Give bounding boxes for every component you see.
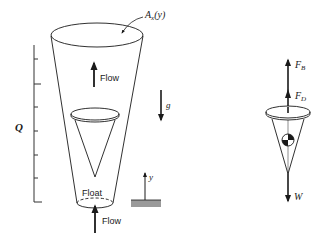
flow-scale: [34, 45, 42, 202]
y-axis-label: y: [148, 172, 153, 182]
svg-text:Ax(y): Ax(y): [144, 9, 166, 22]
float: [71, 108, 119, 177]
rotameter-diagram: Q Ax(y) Flow Float Flow g y: [0, 0, 331, 242]
scale-label-q: Q: [15, 121, 23, 133]
float-label: Float: [82, 188, 103, 198]
flow-label-bottom: Flow: [102, 216, 122, 226]
center-of-gravity-icon: [282, 134, 294, 146]
drag-label: FD: [294, 90, 306, 103]
gravity-label: g: [166, 100, 171, 110]
free-body-diagram: FB FD W: [266, 59, 310, 202]
drag-force-arrowhead: [285, 89, 291, 98]
ground-hatch: [131, 200, 161, 207]
flow-label-top: Flow: [100, 73, 120, 83]
area-label: Ax(y): [122, 9, 166, 33]
weight-label: W: [294, 191, 304, 202]
buoyancy-label: FB: [294, 59, 306, 72]
